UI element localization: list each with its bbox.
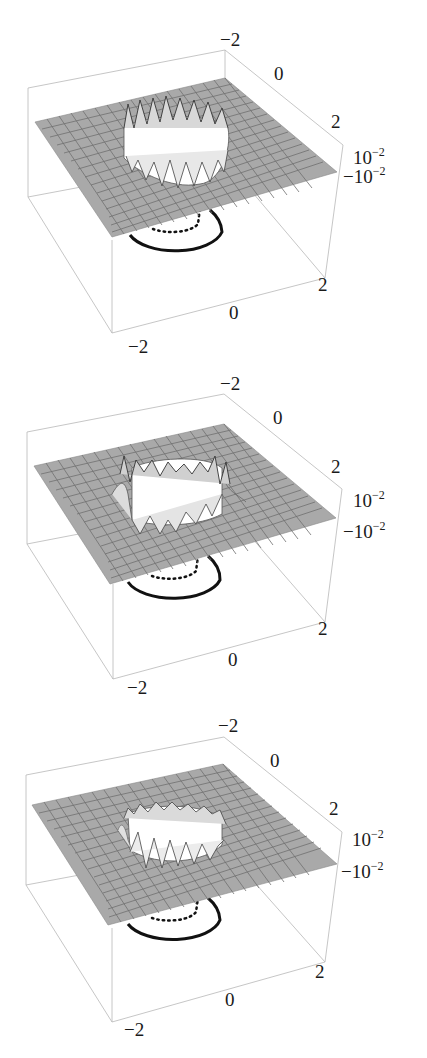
surface-plot-2 — [0, 344, 427, 694]
axis-tick-top-right: 2 — [329, 799, 339, 818]
plot-panel-1: −2 0 2 10−2 −10−2 2 0 −2 — [0, 0, 427, 350]
axis-tick-bot-mid: 0 — [229, 303, 239, 322]
z-tick-low: −10−2 — [343, 167, 386, 186]
axis-tick-bot-right: 2 — [318, 275, 328, 294]
axis-tick-bot-left: −2 — [127, 678, 147, 697]
axis-tick-top-back: −2 — [218, 716, 238, 735]
plot-panel-2: −2 0 2 10−2 −10−2 2 0 −2 — [0, 344, 427, 694]
z-tick-high: 10−2 — [352, 830, 384, 849]
z-tick-low: −10−2 — [343, 522, 386, 541]
axis-tick-top-mid: 0 — [270, 751, 280, 770]
axis-tick-top-back: −2 — [220, 30, 240, 49]
plot-panel-3: −2 0 2 10−2 −10−2 2 0 −2 — [0, 700, 427, 1050]
axis-tick-bot-left: −2 — [124, 1020, 144, 1039]
axis-tick-top-right: 2 — [331, 457, 341, 476]
axis-tick-bot-mid: 0 — [225, 990, 235, 1009]
axis-tick-bot-mid: 0 — [228, 650, 238, 669]
axis-tick-top-mid: 0 — [274, 64, 284, 83]
axis-tick-top-right: 2 — [331, 112, 341, 131]
z-tick-high: 10−2 — [353, 491, 385, 510]
axis-tick-top-mid: 0 — [273, 408, 283, 427]
axis-tick-bot-right: 2 — [315, 962, 325, 981]
z-tick-low: −10−2 — [341, 862, 384, 881]
axis-tick-top-back: −2 — [220, 374, 240, 393]
axis-tick-bot-right: 2 — [318, 619, 328, 638]
